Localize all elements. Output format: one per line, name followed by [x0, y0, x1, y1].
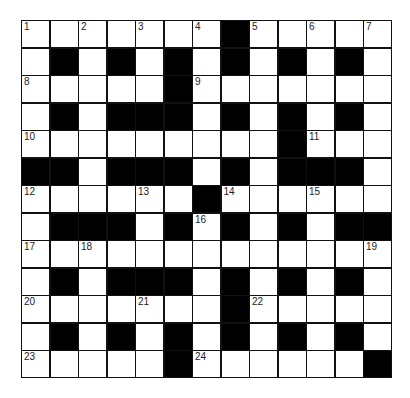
crossword-cell[interactable] — [250, 241, 277, 267]
crossword-cell[interactable]: 18 — [79, 241, 106, 267]
crossword-cell[interactable] — [79, 49, 106, 75]
crossword-cell[interactable] — [250, 324, 277, 350]
crossword-cell[interactable] — [136, 76, 163, 102]
crossword-cell[interactable] — [79, 104, 106, 130]
crossword-cell[interactable] — [364, 324, 391, 350]
crossword-cell[interactable]: 7 — [364, 21, 391, 47]
crossword-cell[interactable] — [222, 76, 249, 102]
crossword-cell[interactable] — [165, 241, 192, 267]
crossword-cell[interactable] — [22, 104, 49, 130]
crossword-cell[interactable] — [250, 76, 277, 102]
crossword-cell[interactable] — [307, 351, 334, 377]
crossword-cell[interactable] — [136, 351, 163, 377]
crossword-cell[interactable] — [108, 241, 135, 267]
crossword-cell[interactable] — [165, 131, 192, 157]
crossword-cell[interactable] — [336, 296, 363, 322]
crossword-cell[interactable] — [108, 21, 135, 47]
crossword-cell[interactable]: 1 — [22, 21, 49, 47]
crossword-cell[interactable] — [193, 296, 220, 322]
crossword-cell[interactable]: 11 — [307, 131, 334, 157]
crossword-cell[interactable]: 17 — [22, 241, 49, 267]
crossword-cell[interactable] — [51, 186, 78, 212]
crossword-cell[interactable]: 16 — [193, 214, 220, 240]
crossword-cell[interactable] — [79, 269, 106, 295]
crossword-cell[interactable] — [79, 131, 106, 157]
crossword-cell[interactable] — [279, 76, 306, 102]
crossword-cell[interactable] — [79, 351, 106, 377]
crossword-cell[interactable] — [364, 104, 391, 130]
crossword-cell[interactable] — [51, 241, 78, 267]
crossword-cell[interactable]: 22 — [250, 296, 277, 322]
crossword-cell[interactable] — [79, 324, 106, 350]
crossword-cell[interactable] — [279, 241, 306, 267]
crossword-cell[interactable] — [165, 296, 192, 322]
crossword-cell[interactable] — [165, 186, 192, 212]
crossword-cell[interactable] — [364, 186, 391, 212]
crossword-cell[interactable] — [364, 159, 391, 185]
crossword-cell[interactable] — [222, 351, 249, 377]
crossword-cell[interactable] — [279, 21, 306, 47]
crossword-cell[interactable] — [364, 76, 391, 102]
crossword-cell[interactable] — [307, 214, 334, 240]
crossword-cell[interactable] — [79, 159, 106, 185]
crossword-cell[interactable]: 21 — [136, 296, 163, 322]
crossword-cell[interactable] — [22, 324, 49, 350]
crossword-cell[interactable] — [22, 214, 49, 240]
crossword-cell[interactable] — [336, 241, 363, 267]
crossword-cell[interactable] — [307, 296, 334, 322]
crossword-cell[interactable] — [307, 76, 334, 102]
crossword-cell[interactable] — [193, 269, 220, 295]
crossword-cell[interactable] — [193, 131, 220, 157]
crossword-cell[interactable] — [108, 131, 135, 157]
crossword-cell[interactable] — [307, 269, 334, 295]
crossword-cell[interactable] — [250, 186, 277, 212]
crossword-cell[interactable] — [307, 241, 334, 267]
crossword-cell[interactable]: 15 — [307, 186, 334, 212]
crossword-cell[interactable] — [336, 21, 363, 47]
crossword-cell[interactable] — [193, 104, 220, 130]
crossword-cell[interactable] — [364, 131, 391, 157]
crossword-cell[interactable] — [307, 49, 334, 75]
crossword-cell[interactable] — [108, 186, 135, 212]
crossword-cell[interactable] — [250, 269, 277, 295]
crossword-cell[interactable] — [250, 351, 277, 377]
crossword-cell[interactable]: 23 — [22, 351, 49, 377]
crossword-cell[interactable] — [222, 241, 249, 267]
crossword-cell[interactable] — [108, 351, 135, 377]
crossword-cell[interactable] — [364, 269, 391, 295]
crossword-cell[interactable]: 24 — [193, 351, 220, 377]
crossword-cell[interactable] — [51, 21, 78, 47]
crossword-cell[interactable]: 5 — [250, 21, 277, 47]
crossword-cell[interactable]: 19 — [364, 241, 391, 267]
crossword-cell[interactable] — [279, 351, 306, 377]
crossword-cell[interactable] — [136, 49, 163, 75]
crossword-cell[interactable] — [250, 104, 277, 130]
crossword-cell[interactable] — [250, 131, 277, 157]
crossword-cell[interactable] — [250, 159, 277, 185]
crossword-cell[interactable] — [165, 21, 192, 47]
crossword-cell[interactable] — [250, 49, 277, 75]
crossword-cell[interactable] — [51, 351, 78, 377]
crossword-cell[interactable] — [136, 131, 163, 157]
crossword-cell[interactable] — [108, 76, 135, 102]
crossword-cell[interactable]: 6 — [307, 21, 334, 47]
crossword-cell[interactable] — [307, 104, 334, 130]
crossword-cell[interactable]: 8 — [22, 76, 49, 102]
crossword-cell[interactable] — [79, 296, 106, 322]
crossword-cell[interactable] — [136, 324, 163, 350]
crossword-cell[interactable] — [51, 76, 78, 102]
crossword-cell[interactable] — [222, 131, 249, 157]
crossword-cell[interactable] — [22, 49, 49, 75]
crossword-cell[interactable]: 4 — [193, 21, 220, 47]
crossword-cell[interactable]: 20 — [22, 296, 49, 322]
crossword-cell[interactable] — [364, 296, 391, 322]
crossword-cell[interactable]: 2 — [79, 21, 106, 47]
crossword-cell[interactable] — [136, 241, 163, 267]
crossword-cell[interactable] — [279, 186, 306, 212]
crossword-cell[interactable] — [193, 49, 220, 75]
crossword-cell[interactable] — [364, 49, 391, 75]
crossword-cell[interactable]: 13 — [136, 186, 163, 212]
crossword-cell[interactable] — [108, 296, 135, 322]
crossword-cell[interactable]: 3 — [136, 21, 163, 47]
crossword-cell[interactable] — [193, 159, 220, 185]
